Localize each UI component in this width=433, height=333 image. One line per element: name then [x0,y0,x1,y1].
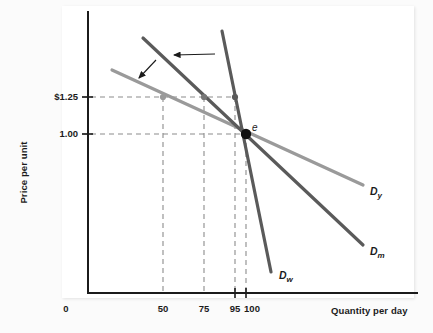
marker-dw-125 [232,94,238,100]
x-tick-label-50: 50 [153,303,173,314]
curve-label-dm-sub: m [378,251,385,260]
dashed-guides [82,97,246,293]
x-tick-label-75: 75 [194,303,214,314]
y-tick-label-100: 1.00 [30,128,78,139]
curve-label-dy: Dy [370,185,382,200]
curve-label-dm-base: D [370,245,378,257]
chart-canvas [0,0,433,333]
y-tick-label-125: $1.25 [30,91,78,102]
x-tick-label-0: 0 [56,303,76,314]
curve-label-dy-base: D [370,185,378,197]
equilibrium-point-label: e [252,122,258,133]
curve-dm [143,38,363,245]
equilibrium-dot [241,129,251,139]
marker-dm-125 [201,94,207,100]
marker-dy-125 [160,94,166,100]
x-axis-title: Quantity per day [331,305,408,316]
curve-label-dw: Dw [279,269,293,284]
arrow-shift-dm-left [174,54,215,55]
y-axis-title: Price per unit [18,125,29,221]
curve-label-dw-sub: w [287,275,293,284]
x-tick-label-100: 100 [240,303,264,314]
curve-label-dy-sub: y [378,191,382,200]
chart-figure: Price per unit Quantity per day $1.25 1.… [0,0,433,333]
curve-label-dm: Dm [370,245,385,260]
arrow-shift-dy-down-left [139,60,156,78]
curve-label-dw-base: D [279,269,287,281]
